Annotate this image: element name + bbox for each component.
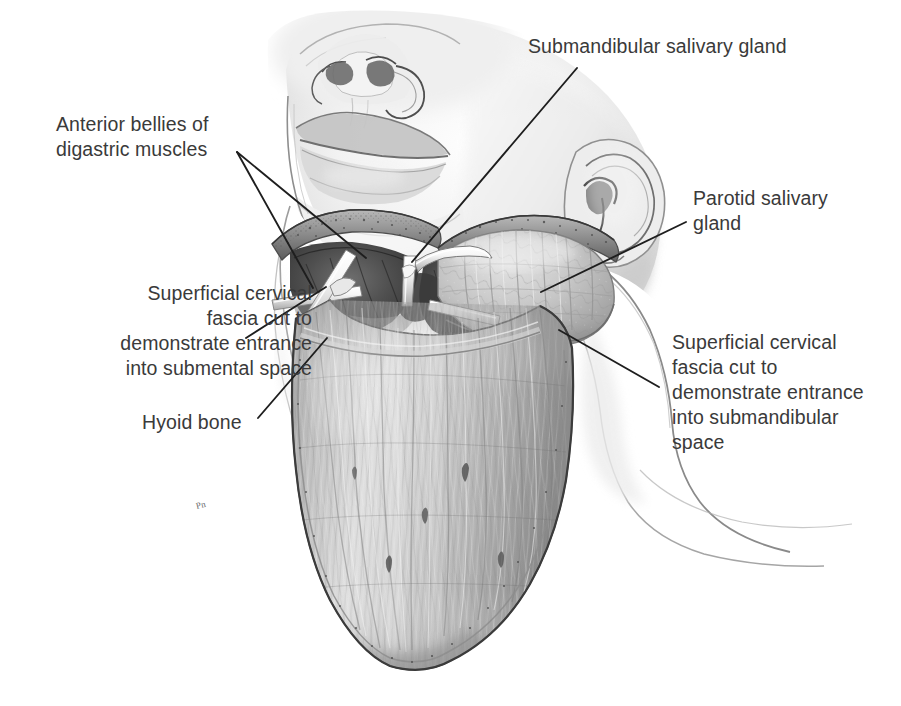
anatomical-figure: Submandibular salivary gland Anterior be…	[0, 0, 901, 706]
label-parotid-salivary-gland: Parotid salivary gland	[693, 186, 828, 236]
label-superficial-cervical-fascia-submandibular: Superficial cervical fascia cut to demon…	[672, 330, 864, 455]
label-submandibular-salivary-gland: Submandibular salivary gland	[528, 34, 787, 59]
label-superficial-cervical-fascia-submental: Superficial cervical fascia cut to demon…	[62, 281, 312, 381]
label-hyoid-bone: Hyoid bone	[142, 410, 242, 435]
label-anterior-bellies-of-digastric-muscles: Anterior bellies of digastric muscles	[56, 112, 209, 162]
